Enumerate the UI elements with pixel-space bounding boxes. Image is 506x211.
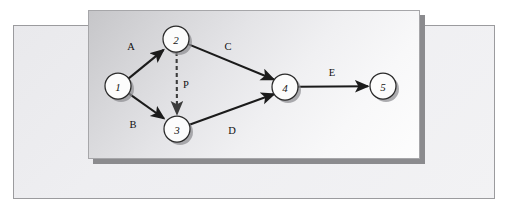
network-diagram-figure: 1 2 3 4 5 A B C D E P [0,0,506,211]
inner-diagram-panel [88,10,420,159]
